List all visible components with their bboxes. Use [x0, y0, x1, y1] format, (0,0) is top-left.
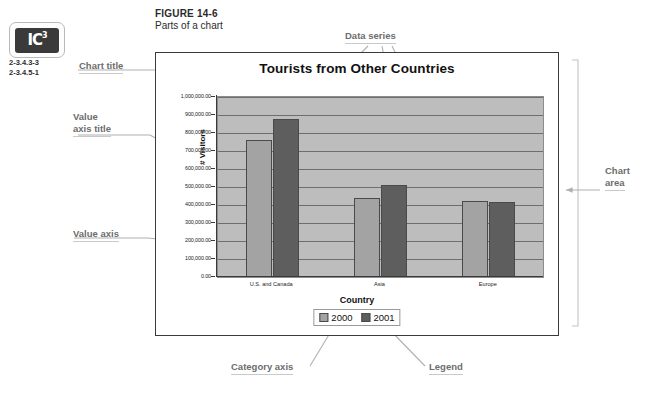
- bar-2001-u-s-and-canada[interactable]: [273, 119, 299, 277]
- category-axis-title: Country: [156, 295, 558, 305]
- annotation-category-axis: Category axis: [231, 361, 293, 375]
- annotation-value-axis: Value axis: [73, 228, 119, 242]
- value-axis-tick-mark: [211, 186, 215, 187]
- value-axis-tick-labels: 0.00100,000.00200,000.00300,000.00400,00…: [156, 91, 215, 281]
- category-axis-tick: U.S. and Canada: [250, 281, 293, 287]
- gridline: [218, 133, 543, 134]
- legend-label-2001: 2001: [374, 312, 395, 323]
- chart-area: Tourists from Other Countries # Visitors…: [155, 52, 559, 336]
- plot-area: [217, 96, 544, 278]
- annotation-data-series: Data series: [345, 30, 396, 44]
- ic3-logo-mark: IC3: [15, 28, 59, 53]
- ic3-code-2: 2-3.4.5-1: [9, 68, 69, 78]
- legend-label-2000: 2000: [331, 312, 352, 323]
- value-axis-tick-mark: [211, 96, 215, 97]
- value-axis-tick-mark: [211, 132, 215, 133]
- gridline: [218, 97, 543, 98]
- annotation-value-axis-title: Value axis title: [73, 111, 111, 137]
- value-axis-tick-mark: [211, 258, 215, 259]
- value-axis-tick-mark: [211, 240, 215, 241]
- ic3-logo: IC3: [9, 22, 65, 58]
- legend-item-2000[interactable]: 2000: [319, 312, 352, 323]
- ic3-code-1: 2-3.4.3-3: [9, 58, 69, 68]
- figure-number: FIGURE 14-6: [155, 8, 335, 19]
- bar-2000-asia[interactable]: [354, 198, 380, 277]
- ic3-logo-text: IC: [27, 31, 42, 49]
- gridline: [218, 115, 543, 116]
- category-axis-tick: Asia: [374, 281, 385, 287]
- value-axis-tick: 600,000.00: [185, 165, 211, 171]
- category-axis-tick: Europe: [479, 281, 497, 287]
- category-axis-line: [216, 276, 543, 277]
- value-axis-tick-mark: [211, 276, 215, 277]
- value-axis-tick: 900,000.00: [185, 111, 211, 117]
- figure-subtitle: Parts of a chart: [155, 20, 335, 31]
- value-axis-tick-mark: [211, 204, 215, 205]
- bar-2000-europe[interactable]: [462, 201, 488, 278]
- bar-2001-europe[interactable]: [489, 202, 515, 277]
- annotation-legend: Legend: [429, 361, 463, 375]
- value-axis-tick-mark: [211, 222, 215, 223]
- chart-title: Tourists from Other Countries: [156, 61, 558, 76]
- legend-swatch-2000: [319, 313, 328, 322]
- value-axis-tick: 300,000.00: [185, 219, 211, 225]
- value-axis-tick: 1,000,000.00: [181, 93, 211, 99]
- value-axis-tick: 800,000.00: [185, 129, 211, 135]
- value-axis-tick: 100,000.00: [185, 255, 211, 261]
- ic3-objective-codes: 2-3.4.3-3 2-3.4.5-1: [9, 58, 69, 78]
- chart-legend[interactable]: 20002001: [313, 309, 400, 326]
- ic3-logo-superscript: 3: [42, 31, 47, 40]
- legend-item-2001[interactable]: 2001: [362, 312, 395, 323]
- value-axis-tick: 500,000.00: [185, 183, 211, 189]
- value-axis-tick: 400,000.00: [185, 201, 211, 207]
- value-axis-tick: 0.00: [201, 273, 211, 279]
- value-axis-tick-mark: [211, 168, 215, 169]
- figure-caption: FIGURE 14-6 Parts of a chart: [155, 8, 335, 31]
- value-axis-tick: 700,000.00: [185, 147, 211, 153]
- annotation-chart-title: Chart title: [79, 60, 123, 74]
- bar-2001-asia[interactable]: [381, 185, 407, 277]
- bar-2000-u-s-and-canada[interactable]: [246, 140, 272, 277]
- legend-swatch-2001: [362, 313, 371, 322]
- annotation-chart-area: Chart area: [605, 165, 630, 191]
- value-axis-tick: 200,000.00: [185, 237, 211, 243]
- value-axis-tick-mark: [211, 114, 215, 115]
- value-axis-tick-mark: [211, 150, 215, 151]
